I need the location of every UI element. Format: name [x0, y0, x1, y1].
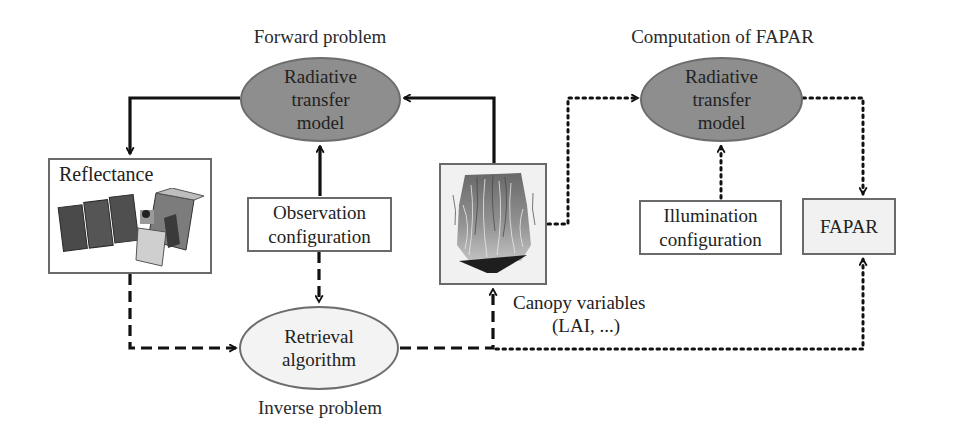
rtm-forward-line2: transfer: [284, 88, 357, 111]
fapar-computation-title: Computation of FAPAR: [610, 26, 835, 48]
rtm-forward-line1: Radiative: [284, 65, 357, 88]
observation-configuration-node: Observation configuration: [247, 197, 392, 252]
rtm-fapar-node: Radiative transfer model: [640, 57, 803, 142]
canopy-vegetation-icon: [441, 165, 545, 283]
fapar-label: FAPAR: [820, 215, 878, 239]
rtm-fapar-line2: transfer: [685, 88, 758, 111]
rtm-fapar-line1: Radiative: [685, 65, 758, 88]
reflectance-node: Reflectance: [48, 158, 212, 274]
edge-reflectance-to-retrieval: [130, 274, 236, 348]
edge-rtm-fapar-to-fapar: [803, 98, 863, 194]
retrieval-algorithm-node: Retrieval algorithm: [239, 306, 399, 390]
reflectance-label: Reflectance: [59, 162, 153, 186]
canopy-variables-caption: Canopy variables: [513, 292, 645, 314]
retrieval-line2: algorithm: [282, 348, 356, 371]
canopy-node: [439, 163, 547, 285]
fapar-node: FAPAR: [802, 198, 896, 255]
inverse-problem-title: Inverse problem: [230, 397, 410, 419]
edge-canopy-to-rtm: [404, 98, 494, 163]
illumination-configuration-node: Illumination configuration: [639, 200, 782, 255]
edge-retrieval-to-canopy: [400, 289, 493, 348]
edge-canopy-to-rtm-fapar: [548, 98, 638, 224]
illumination-line2: configuration: [659, 228, 761, 252]
observation-line1: Observation: [268, 201, 370, 225]
forward-problem-title: Forward problem: [230, 26, 410, 48]
satellite-icon: [56, 188, 206, 268]
rtm-fapar-line3: model: [685, 111, 758, 134]
illumination-line1: Illumination: [659, 204, 761, 228]
edge-rtm-to-reflectance: [130, 98, 240, 154]
rtm-forward-node: Radiative transfer model: [240, 57, 401, 142]
observation-line2: configuration: [268, 225, 370, 249]
rtm-forward-line3: model: [284, 111, 357, 134]
retrieval-line1: Retrieval: [282, 325, 356, 348]
canopy-variables-lai-caption: (LAI, ...): [552, 315, 620, 337]
